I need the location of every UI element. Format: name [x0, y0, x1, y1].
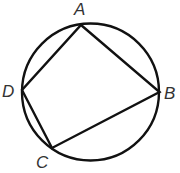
label-a: A [73, 0, 85, 19]
label-c: C [36, 153, 49, 172]
cyclic-quadrilateral-diagram: A B C D [0, 0, 180, 173]
label-b: B [164, 84, 175, 103]
circumscribed-circle [22, 24, 159, 161]
label-d: D [2, 82, 14, 101]
